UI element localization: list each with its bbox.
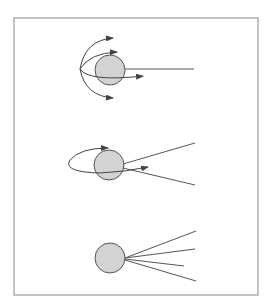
ray-1 <box>125 231 196 258</box>
sphere <box>94 150 124 180</box>
line-lower <box>123 168 195 185</box>
line-upper <box>123 143 195 164</box>
sphere <box>95 243 125 273</box>
panel-2 <box>69 143 195 185</box>
panel-3 <box>95 231 196 281</box>
sphere <box>95 55 125 85</box>
diagram-canvas <box>0 0 273 304</box>
panel-1 <box>80 38 194 98</box>
